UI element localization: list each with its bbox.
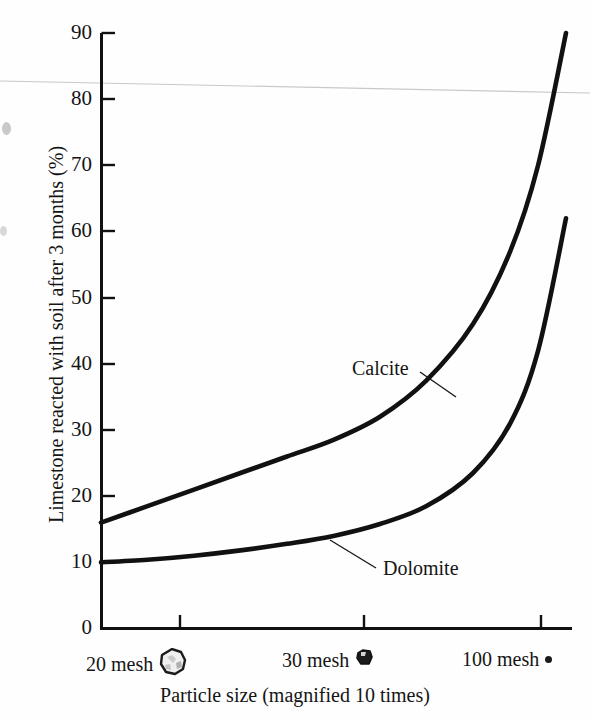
y-tick-label: 0 — [52, 617, 92, 638]
x-tick-label-text: 100 mesh — [462, 648, 539, 671]
y-tick-label: 90 — [52, 22, 92, 43]
series-label-dolomite: Dolomite — [383, 557, 459, 580]
x-tick-30-mesh: 30 mesh — [282, 648, 374, 672]
x-tick-100-mesh: 100 mesh — [462, 648, 552, 671]
x-tick-label-text: 30 mesh — [282, 649, 349, 672]
y-axis-ticks — [102, 33, 116, 562]
series-curve-dolomite — [101, 218, 566, 562]
x-tick-20-mesh: 20 mesh — [86, 648, 187, 681]
rock-large-icon — [159, 648, 187, 681]
dot-icon — [545, 656, 552, 663]
x-axis-title: Particle size (magnified 10 times) — [0, 684, 590, 707]
x-tick-label-text: 20 mesh — [86, 653, 153, 676]
chart-figure: 90 80 70 60 50 40 30 20 10 0 Limestone r… — [0, 0, 590, 722]
rock-small-icon — [355, 648, 374, 672]
series-label-calcite: Calcite — [352, 357, 409, 380]
y-axis-title: Limestone reacted with soil after 3 mont… — [45, 100, 68, 570]
x-axis-ticks — [180, 615, 541, 629]
dolomite-leader-line — [330, 540, 376, 568]
